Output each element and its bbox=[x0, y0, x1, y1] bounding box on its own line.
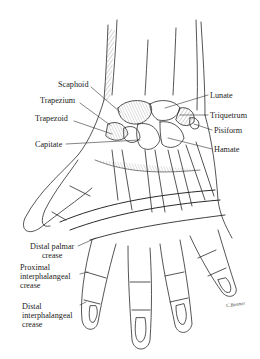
ring-finger bbox=[160, 240, 192, 332]
label-capitate: Capitate bbox=[35, 140, 62, 149]
label-line: interphalangeal bbox=[20, 272, 70, 281]
label-line: Proximal bbox=[20, 263, 70, 272]
label-line: interphalangeal bbox=[22, 311, 72, 320]
label-trapezium: Trapezium bbox=[40, 96, 75, 105]
middle-finger bbox=[128, 246, 152, 349]
label-line: Distal palmar bbox=[30, 242, 74, 251]
label-lunate: Lunate bbox=[210, 91, 233, 100]
label-distal-interphalangeal-crease: Distal interphalangeal crease bbox=[22, 302, 72, 329]
label-proximal-interphalangeal-crease: Proximal interphalangeal crease bbox=[20, 263, 70, 290]
label-distal-palmar-crease: Distal palmar crease bbox=[30, 242, 74, 260]
label-hamate: Hamate bbox=[214, 145, 239, 154]
label-line: crease bbox=[22, 320, 72, 329]
label-line: crease bbox=[20, 281, 70, 290]
little-finger bbox=[190, 230, 236, 296]
label-line: crease bbox=[30, 251, 74, 260]
label-pisiform: Pisiform bbox=[214, 126, 242, 135]
label-scaphoid: Scaphoid bbox=[58, 80, 88, 89]
label-trapezoid: Trapezoid bbox=[35, 114, 68, 123]
index-finger bbox=[81, 240, 116, 329]
label-line: Distal bbox=[22, 302, 72, 311]
label-triquetrum: Triquetrum bbox=[210, 111, 247, 120]
